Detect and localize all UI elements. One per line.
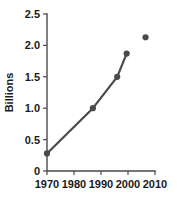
chart-container: 00.51.01.52.02.519701980199020002010Bill… [0, 0, 177, 198]
x-tick-label: 1990 [89, 178, 113, 190]
data-point-marker [90, 105, 96, 111]
line-chart: 00.51.01.52.02.519701980199020002010Bill… [0, 0, 177, 198]
y-tick-label: 0.5 [25, 134, 40, 146]
axis-lines [47, 14, 155, 171]
data-point-marker [124, 50, 130, 56]
y-tick-label: 1.0 [25, 102, 40, 114]
y-tick-label: 2.0 [25, 39, 40, 51]
x-tick-label: 2010 [143, 178, 167, 190]
y-tick-label: 1.5 [25, 71, 40, 83]
x-tick-label: 1970 [35, 178, 59, 190]
data-point-marker [44, 150, 50, 156]
data-point-marker [114, 74, 120, 80]
x-tick-label: 1980 [62, 178, 86, 190]
series-line-connected-trend [47, 54, 127, 154]
y-tick-label: 0 [34, 165, 40, 177]
y-tick-label: 2.5 [25, 8, 40, 20]
data-point-marker [142, 34, 148, 40]
x-tick-label: 2000 [116, 178, 140, 190]
y-axis-title: Billions [3, 73, 15, 113]
